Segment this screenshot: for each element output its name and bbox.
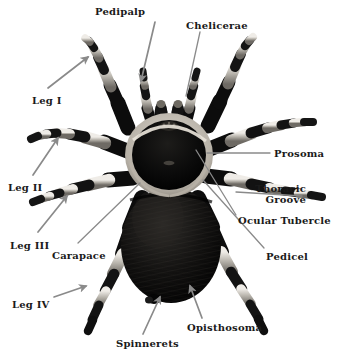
pedipalp-arrow [141,22,155,81]
label-spinnerets-line1: Spinnerets [116,338,179,349]
label-leg-3: Leg III [10,240,49,251]
ocular-tubercle-line [196,150,236,215]
label-ocular-tubercle-line1: Ocular Tubercle [238,215,331,226]
label-spinnerets: Spinnerets [116,338,179,349]
label-pedicel: Pedicel [266,251,308,262]
label-chelicerae: Chelicerae [186,20,248,31]
label-leg-2-line1: Leg II [8,182,42,193]
leg-2-arrow [33,138,58,175]
label-prosoma: Prosoma [274,148,324,159]
leg-3-arrow [38,196,67,232]
label-leg-2: Leg II [8,182,42,193]
label-carapace-line1: Carapace [52,250,106,261]
label-chelicerae-line1: Chelicerae [186,20,248,31]
label-thoracic-groove: ThoracicGroove [255,183,306,205]
label-thoracic-groove-line1: Thoracic [255,183,306,194]
label-pedicel-line1: Pedicel [266,251,308,262]
label-leg-3-line1: Leg III [10,240,49,251]
spinnerets-arrow [143,297,160,334]
carapace-line [78,183,140,243]
label-opisthosoma-line1: Opisthosoma [187,322,262,333]
leg-4-arrow [54,286,86,297]
label-carapace: Carapace [52,250,106,261]
label-opisthosoma: Opisthosoma [187,322,262,333]
label-leg-4: Leg IV [12,299,50,310]
annotation-leaders [0,0,355,358]
leg-1-arrow [48,57,88,88]
spider-anatomy-diagram: PedipalpCheliceraeLeg IProsomaThoracicGr… [0,0,355,358]
label-prosoma-line1: Prosoma [274,148,324,159]
label-pedipalp: Pedipalp [95,6,145,17]
opisthosoma-arrow [190,286,202,318]
label-leg-1: Leg I [32,95,62,106]
label-thoracic-groove-line2: Groove [265,194,306,205]
label-leg-4-line1: Leg IV [12,299,50,310]
label-ocular-tubercle: Ocular Tubercle [238,215,331,226]
label-leg-1-line1: Leg I [32,95,62,106]
chelicerae-line [186,32,200,96]
label-pedipalp-line1: Pedipalp [95,6,145,17]
